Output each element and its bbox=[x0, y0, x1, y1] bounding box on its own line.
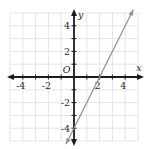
y-tick-label: -4 bbox=[61, 123, 70, 134]
x-tick-label: 4 bbox=[120, 80, 126, 91]
y-tick-label: -2 bbox=[61, 97, 70, 108]
y-tick-label: 4 bbox=[64, 20, 70, 31]
y-axis-arrow-bottom bbox=[71, 139, 77, 146]
origin-label: O bbox=[63, 64, 71, 75]
y-axis-label: y bbox=[77, 9, 84, 20]
x-axis-label: x bbox=[136, 62, 142, 73]
x-axis-arrow-right bbox=[137, 74, 144, 80]
y-tick-label: 2 bbox=[64, 46, 70, 57]
x-tick-label: -2 bbox=[42, 80, 51, 91]
x-tick-label: -4 bbox=[16, 80, 25, 91]
coordinate-plane-figure: -4-22442-2-4xyO bbox=[0, 0, 149, 149]
coordinate-plane-graph: -4-22442-2-4xyO bbox=[0, 0, 149, 149]
